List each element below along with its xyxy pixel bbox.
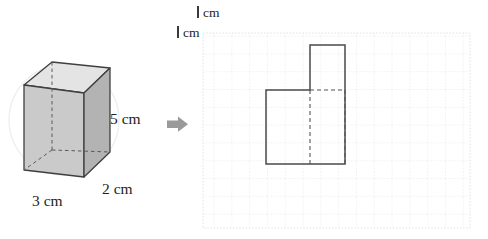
unit-text-left: cm xyxy=(183,25,200,40)
l-shape-outline xyxy=(266,45,345,164)
unit-digit-one-top xyxy=(197,6,199,18)
unit-digit-one-left xyxy=(177,26,179,38)
figure-root: 5 cm 2 cm 3 cm cm cm xyxy=(0,0,488,239)
unit-text-top: cm xyxy=(203,5,220,20)
prism-depth-label: 2 cm xyxy=(102,181,133,197)
shape-drawing xyxy=(0,0,488,239)
grid-unit-label-left: cm xyxy=(177,26,200,40)
grid-unit-label-top: cm xyxy=(197,6,220,20)
prism-height-label: 5 cm xyxy=(110,111,141,127)
prism-width-label: 3 cm xyxy=(32,193,63,209)
